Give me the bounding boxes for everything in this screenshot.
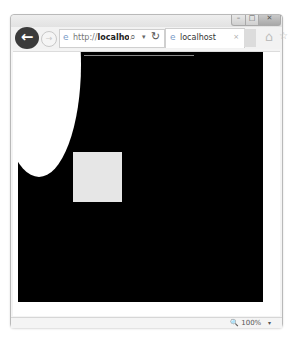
zoom-dropdown-icon[interactable]: ▾ (268, 319, 271, 326)
maximize-button[interactable]: □ (245, 15, 259, 26)
search-icon[interactable]: ⌕ (130, 31, 136, 43)
forward-arrow-icon: → (46, 34, 53, 43)
navigation-bar: ← → e http://localhost/t ⌕ ▾ ↻ e localho… (11, 27, 282, 49)
url-host: localhost (98, 33, 129, 42)
zoom-icon: 🔍 (230, 319, 239, 327)
status-bar: 🔍 100% ▾ (11, 317, 282, 328)
canvas-line (84, 55, 194, 56)
tab-site-icon: e (170, 32, 176, 42)
tab-localhost[interactable]: e localhost × (165, 28, 245, 48)
new-tab-button[interactable] (244, 29, 256, 47)
forward-button[interactable]: → (41, 31, 57, 47)
minimize-icon: – (232, 14, 245, 22)
close-window-button[interactable]: ✕ (258, 15, 281, 26)
tab-close-icon[interactable]: × (233, 33, 239, 41)
back-button[interactable]: ← (15, 27, 39, 49)
minimize-button[interactable]: – (231, 15, 246, 26)
maximize-icon: □ (246, 14, 258, 22)
grey-square (73, 152, 122, 202)
url-text[interactable]: http://localhost/t (73, 33, 129, 42)
url-prefix: http:// (73, 33, 98, 42)
zoom-level[interactable]: 🔍 100% (230, 319, 261, 327)
close-icon: ✕ (259, 14, 280, 22)
page-content (13, 51, 280, 316)
zoom-value: 100% (241, 319, 261, 327)
favorites-icon[interactable]: ☆ (279, 30, 288, 41)
title-bar: – □ ✕ (11, 15, 282, 27)
chevron-down-icon[interactable]: ▾ (142, 33, 146, 41)
tab-title: localhost (180, 33, 216, 42)
home-icon[interactable]: ⌂ (265, 29, 273, 44)
address-bar[interactable]: e http://localhost/t ⌕ ▾ ↻ (59, 29, 165, 48)
back-arrow-icon: ← (21, 28, 34, 46)
refresh-icon[interactable]: ↻ (151, 30, 160, 43)
browser-window: – □ ✕ ← → e http://localhost/t ⌕ ▾ ↻ e l… (10, 14, 283, 328)
site-icon: e (63, 32, 69, 42)
